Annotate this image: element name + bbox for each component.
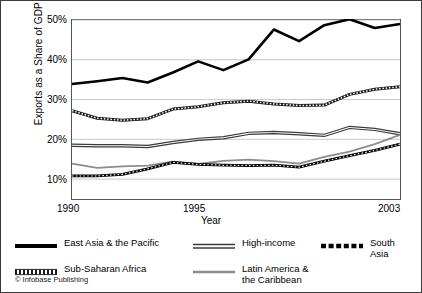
x-tick-1995: 1995: [183, 203, 205, 214]
legend-label: Sub-Saharan Africa: [64, 263, 146, 274]
legend-label: East Asia & the Pacific: [64, 237, 159, 248]
x-tick-2003: 2003: [378, 203, 400, 214]
plot-area: [71, 19, 401, 200]
legend-item-east-asia-the-pacific[interactable]: East Asia & the Pacific: [15, 237, 193, 250]
thick-solid-line-icon: [15, 238, 57, 250]
legend-label: Latin America & the Caribbean: [242, 263, 309, 285]
chart-figure: Exports as a Share of GDP (%) 50% 40% 30…: [0, 0, 422, 293]
x-axis-title: Year: [1, 215, 421, 226]
chart-canvas: [71, 19, 401, 200]
plot-frame: [72, 20, 401, 200]
y-tick-10: 10%: [29, 174, 67, 185]
gray-line-icon: [193, 264, 235, 276]
double-line-icon: [193, 238, 235, 250]
legend-row-1: East Asia & the Pacific High-income S: [15, 237, 411, 259]
legend-label: High-income: [242, 237, 295, 248]
copyright-notice: © Infobase Publishing: [15, 275, 88, 284]
y-axis-title: Exports as a Share of GDP (%): [33, 0, 44, 145]
legend-item-high-income[interactable]: High-income: [193, 237, 321, 250]
thick-dashed-line-icon: [321, 238, 363, 250]
legend-label: South Asia: [370, 237, 411, 259]
x-tick-1990: 1990: [57, 203, 79, 214]
legend-item-latin-america-the-caribbean[interactable]: Latin America & the Caribbean: [193, 263, 321, 285]
legend-item-south-asia[interactable]: South Asia: [321, 237, 411, 259]
